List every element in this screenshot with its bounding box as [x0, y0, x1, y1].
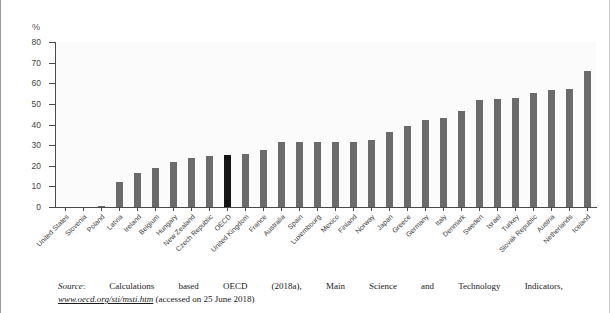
y-axis-tick	[49, 207, 55, 208]
bar-slot	[308, 42, 326, 207]
bar-chart: % 01020304050607080 United StatesSloveni…	[1, 0, 610, 270]
y-axis-tick-label: 50	[1, 99, 41, 109]
x-axis-label-slot: Germany	[416, 211, 434, 269]
bar-slot	[326, 42, 344, 207]
bar-slot	[182, 42, 200, 207]
bar	[386, 132, 393, 207]
bar-slot	[380, 42, 398, 207]
y-axis-tick	[49, 145, 55, 146]
bar-slot	[290, 42, 308, 207]
bar	[530, 93, 537, 207]
y-axis-unit-label: %	[32, 22, 40, 32]
bar-slot	[110, 42, 128, 207]
source-word: Main	[326, 280, 345, 292]
source-label: Source:	[58, 280, 85, 292]
bar	[260, 150, 267, 207]
bar-slot	[200, 42, 218, 207]
bar-slot	[236, 42, 254, 207]
x-axis-label-slot: United States	[56, 211, 74, 269]
source-note: Source:CalculationsbasedOECD(2018a),Main…	[58, 280, 563, 305]
x-axis-label-slot: Norway	[362, 211, 380, 269]
y-axis-tick	[49, 104, 55, 105]
x-axis-label-slot: Slovak Republic	[524, 211, 542, 269]
y-axis-tick	[49, 166, 55, 167]
bar-slot	[146, 42, 164, 207]
bar-slot	[524, 42, 542, 207]
y-axis-tick-label: 70	[1, 58, 41, 68]
source-note-line-1: Source:CalculationsbasedOECD(2018a),Main…	[58, 280, 563, 292]
bar	[494, 99, 501, 207]
bar	[206, 156, 213, 207]
x-axis-label-slot: Japan	[380, 211, 398, 269]
bar-slot	[560, 42, 578, 207]
bar	[584, 71, 591, 207]
source-word: and	[421, 280, 434, 292]
source-word: Indicators,	[525, 280, 563, 292]
y-axis-tick-label: 30	[1, 140, 41, 150]
x-axis-label: Italy	[434, 213, 449, 228]
bar-slot	[470, 42, 488, 207]
source-access-date: (accessed on 25 June 2018)	[153, 294, 254, 304]
y-axis-tick-label: 0	[1, 202, 41, 212]
bar-slot	[416, 42, 434, 207]
bar	[566, 89, 573, 207]
bar-slot	[398, 42, 416, 207]
source-word: based	[178, 280, 199, 292]
y-axis-tick	[49, 63, 55, 64]
x-axis-label-slot: Denmark	[452, 211, 470, 269]
y-axis-tick-label: 80	[1, 37, 41, 47]
x-axis-label-slot: Czech Republic	[200, 211, 218, 269]
bar-slot	[578, 42, 596, 207]
bar-slot	[506, 42, 524, 207]
bar	[350, 142, 357, 207]
bar	[134, 173, 141, 207]
bar	[440, 118, 447, 207]
bar-slot	[254, 42, 272, 207]
bar-slot	[362, 42, 380, 207]
bar-slot	[56, 42, 74, 207]
y-axis-tick-label: 60	[1, 78, 41, 88]
bar-slot	[272, 42, 290, 207]
source-word: Calculations	[109, 280, 154, 292]
source-url-link[interactable]: www.oecd.org/sti/msti.htm	[58, 294, 153, 304]
source-word: (2018a),	[272, 280, 302, 292]
bar-slot	[434, 42, 452, 207]
bar-slot	[74, 42, 92, 207]
bar	[170, 162, 177, 207]
bar	[368, 140, 375, 207]
bar-series	[56, 42, 596, 207]
y-axis-tick-label: 40	[1, 120, 41, 130]
bar	[152, 168, 159, 207]
bar	[332, 142, 339, 207]
x-axis-label-slot: Mexico	[326, 211, 344, 269]
x-axis-label-slot: Australia	[272, 211, 290, 269]
bar-slot	[452, 42, 470, 207]
bar	[116, 182, 123, 207]
bar-slot	[128, 42, 146, 207]
bar	[224, 155, 231, 207]
bar	[188, 158, 195, 208]
y-axis-tick	[49, 125, 55, 126]
bar	[512, 98, 519, 207]
bar	[404, 126, 411, 207]
bar-slot	[344, 42, 362, 207]
bar-slot	[92, 42, 110, 207]
x-axis-label-slot: Poland	[92, 211, 110, 269]
x-axis-label-slot: France	[254, 211, 272, 269]
y-axis-tick	[49, 42, 55, 43]
bar	[242, 154, 249, 207]
source-word: Science	[369, 280, 397, 292]
bar	[458, 111, 465, 207]
bar	[476, 100, 483, 207]
y-axis-tick	[49, 186, 55, 187]
bar-slot	[164, 42, 182, 207]
bar	[314, 142, 321, 207]
x-axis-label-slot: Iceland	[578, 211, 596, 269]
bar	[422, 120, 429, 207]
x-axis-label-slot: Finland	[344, 211, 362, 269]
source-note-line-2: www.oecd.org/sti/msti.htm (accessed on 2…	[58, 293, 563, 305]
x-axis-label-slot: Greece	[398, 211, 416, 269]
bar	[548, 90, 555, 207]
x-axis-label-slot: Luxembourg	[308, 211, 326, 269]
bar-slot	[218, 42, 236, 207]
